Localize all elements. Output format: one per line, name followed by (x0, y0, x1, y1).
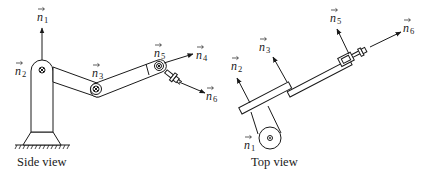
label-n6: n 6 (206, 86, 217, 104)
base-joint-1-icon (259, 127, 281, 149)
label-n3: n 3 (92, 63, 103, 81)
svg-text:n: n (37, 10, 43, 24)
svg-text:5: 5 (161, 51, 165, 61)
svg-text:2: 2 (238, 64, 242, 74)
gripper-tool-icon (163, 68, 184, 87)
svg-text:n: n (244, 138, 250, 152)
side-view-caption: Side view (17, 155, 67, 169)
svg-text:n: n (15, 64, 21, 78)
label-n2-top: n 2 (231, 56, 242, 74)
label-n3-top: n 3 (259, 37, 270, 55)
svg-text:n: n (259, 40, 265, 54)
link-2-bar (239, 82, 292, 114)
svg-text:n: n (231, 59, 237, 73)
base-pedestal (23, 132, 61, 145)
svg-text:2: 2 (22, 69, 26, 79)
label-n5-top: n 5 (330, 8, 341, 26)
svg-text:n: n (196, 48, 202, 62)
top-view-caption: Top view (251, 155, 298, 169)
joint-5-icon (155, 62, 164, 71)
label-n1-top: n 1 (244, 135, 255, 153)
top-view: n 1 n 2 n 3 n 5 n 6 Top view (231, 8, 414, 169)
label-n1: n 1 (37, 7, 48, 25)
label-n2: n 2 (15, 61, 26, 79)
svg-text:n: n (330, 11, 336, 25)
svg-text:n: n (92, 66, 98, 80)
svg-text:1: 1 (251, 143, 255, 153)
svg-text:3: 3 (99, 71, 103, 81)
robot-arm-diagram: n 1 n 2 n 3 n 5 n 4 n 6 Side view (0, 0, 430, 176)
svg-text:n: n (403, 21, 409, 35)
svg-text:6: 6 (213, 94, 217, 104)
svg-text:1: 1 (44, 15, 48, 25)
label-n4: n 4 (196, 45, 208, 63)
svg-text:6: 6 (410, 26, 414, 36)
wrist-clevis-icon (338, 45, 368, 66)
side-view: n 1 n 2 n 3 n 5 n 4 n 6 Side view (15, 7, 217, 169)
svg-text:n: n (154, 46, 160, 60)
label-n5: n 5 (154, 43, 165, 61)
label-n6-top: n 6 (403, 18, 414, 36)
joint-3-icon (91, 84, 102, 95)
svg-text:4: 4 (203, 53, 208, 63)
svg-text:n: n (206, 89, 212, 103)
ground-hatch (15, 145, 70, 149)
svg-text:3: 3 (266, 45, 270, 55)
svg-text:5: 5 (337, 16, 341, 26)
joint-2-icon (39, 67, 45, 73)
